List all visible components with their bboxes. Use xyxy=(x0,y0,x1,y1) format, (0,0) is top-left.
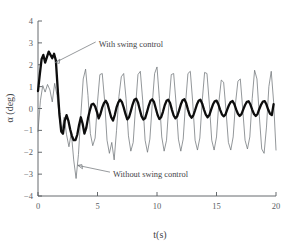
alpha-vs-time-line-chart: 43210−1−2−3−4 05101520 With swing contro… xyxy=(0,0,290,245)
annotation-arrowhead xyxy=(78,165,83,169)
annotation-label: With swing control xyxy=(99,40,164,49)
y-axis-ticks: 43210−1−2−3−4 xyxy=(24,16,42,201)
series-line-without-swing-control xyxy=(38,67,276,179)
y-tick-label: −2 xyxy=(24,147,33,157)
annotation-label: Without swing control xyxy=(113,170,189,179)
y-tick-label: 0 xyxy=(29,104,33,114)
x-tick-label: 5 xyxy=(95,201,99,211)
y-axis-title: α (deg) xyxy=(4,94,16,123)
y-tick-label: 3 xyxy=(29,38,33,48)
y-tick-label: −3 xyxy=(24,169,33,179)
x-tick-label: 0 xyxy=(36,201,40,211)
x-axis-ticks: 05101520 xyxy=(36,192,280,211)
y-tick-label: 1 xyxy=(29,82,33,92)
y-tick-label: −4 xyxy=(24,191,34,201)
x-tick-label: 20 xyxy=(272,201,281,211)
x-axis-title: t(s) xyxy=(153,229,166,241)
x-tick-label: 15 xyxy=(212,201,221,211)
series-line-with-swing-control xyxy=(38,52,274,141)
annotation-leader-line xyxy=(55,42,95,63)
data-series-layer xyxy=(38,52,276,179)
y-tick-label: 4 xyxy=(29,16,34,26)
y-tick-label: −1 xyxy=(24,125,33,135)
y-tick-label: 2 xyxy=(29,60,33,70)
chart-figure: 43210−1−2−3−4 05101520 With swing contro… xyxy=(0,0,290,245)
x-tick-label: 10 xyxy=(153,201,162,211)
